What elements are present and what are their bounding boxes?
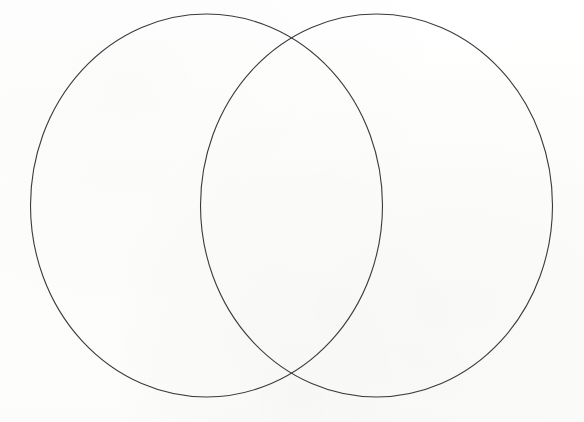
- venn-diagram-page: [0, 0, 584, 422]
- venn-circle-right[interactable]: [201, 14, 553, 397]
- venn-diagram-canvas: [0, 0, 584, 422]
- venn-circle-left[interactable]: [31, 14, 383, 397]
